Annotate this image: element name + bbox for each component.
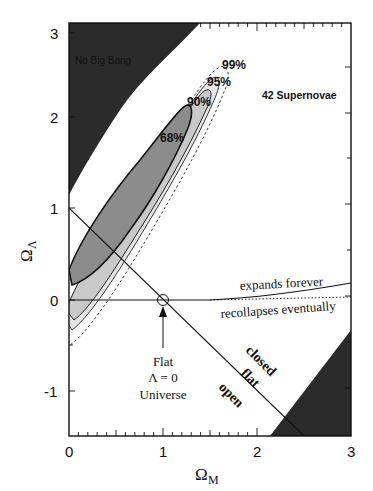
contour-label-95: 95% — [207, 75, 231, 89]
svg-text:Λ: Λ — [25, 240, 39, 249]
x-tick-3: 3 — [347, 443, 355, 460]
supernovae-label: 42 Supernovae — [262, 89, 337, 101]
x-tick-0: 0 — [65, 443, 73, 460]
flat-universe-label-line3: Universe — [140, 387, 187, 402]
x-axis-label: Ω M — [195, 465, 219, 487]
x-tick-1: 1 — [159, 443, 167, 460]
contour-label-68: 68% — [160, 131, 184, 145]
svg-text:M: M — [208, 473, 219, 487]
flat-universe-label-line1: Flat — [153, 354, 174, 369]
y-tick-3: 3 — [50, 25, 58, 42]
flat-universe-line — [69, 208, 304, 436]
open-label: open — [216, 380, 247, 411]
y-tick-minus1: -1 — [44, 383, 57, 400]
y-tick-0: 0 — [50, 292, 58, 309]
cosmology-contour-chart: 3 2 1 0 -1 0 1 2 3 Ω M Ω Λ No Big Bang 4… — [0, 0, 373, 491]
y-tick-2: 2 — [50, 109, 58, 126]
contour-label-99: 99% — [222, 58, 246, 72]
svg-text:Ω: Ω — [17, 249, 36, 262]
contour-label-90: 90% — [187, 95, 211, 109]
expands-forever-label: expands forever — [239, 274, 324, 293]
recollapses-label: recollapses eventually — [220, 298, 336, 321]
flat-universe-label-line2: Λ = 0 — [148, 370, 177, 385]
y-tick-1: 1 — [50, 200, 58, 217]
no-big-bang-label: No Big Bang — [75, 55, 131, 66]
y-axis-label: Ω Λ — [17, 240, 39, 262]
x-tick-2: 2 — [253, 443, 261, 460]
excluded-region-lower-right — [270, 330, 351, 436]
arrow-up-icon — [159, 306, 167, 317]
svg-text:Ω: Ω — [195, 465, 208, 484]
